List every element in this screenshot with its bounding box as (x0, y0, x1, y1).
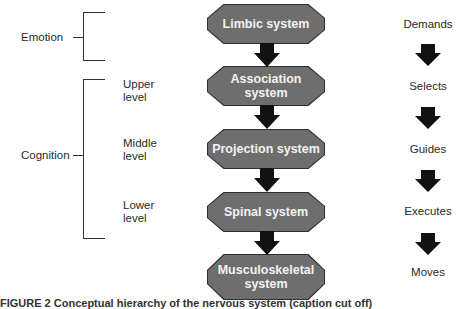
emotion-bracket-top (83, 12, 105, 13)
spinal-system-label: Spinal system (224, 205, 308, 219)
down-arrow-icon (254, 43, 280, 67)
cognition-bracket-tick (73, 155, 83, 156)
down-arrow-icon (254, 168, 280, 192)
emotion-bracket-tick (73, 37, 83, 38)
level-middle: Middle level (123, 137, 157, 163)
action-moves: Moves (388, 266, 457, 278)
musculoskeletal-line1: Musculoskeletal (218, 263, 315, 277)
down-arrow-icon (415, 170, 441, 192)
musculoskeletal-line2: system (244, 277, 287, 291)
action-selects: Selects (388, 80, 457, 92)
emotion-bracket-bottom (83, 60, 105, 61)
down-arrow-icon (254, 231, 280, 255)
level-middle-line1: Middle (123, 137, 157, 150)
association-system-label: Association system (208, 72, 324, 100)
down-arrow-icon (415, 107, 441, 129)
level-lower-line1: Lower (123, 199, 154, 212)
down-arrow-icon (415, 233, 441, 255)
level-middle-line2: level (123, 150, 157, 163)
musculoskeletal-system-box: Musculoskeletal system (208, 255, 324, 299)
action-executes: Executes (388, 205, 457, 217)
level-lower-line2: level (123, 212, 154, 225)
down-arrow-icon (254, 105, 280, 129)
down-arrow-icon (415, 44, 441, 66)
emotion-label: Emotion (21, 31, 63, 44)
limbic-system-label: Limbic system (223, 17, 310, 31)
cognition-bracket-top (83, 79, 105, 80)
limbic-system-box: Limbic system (208, 5, 324, 43)
projection-system-label: Projection system (212, 142, 320, 156)
spinal-system-box: Spinal system (208, 193, 324, 231)
level-upper: Upper level (123, 78, 154, 104)
cognition-bracket-bottom (83, 238, 105, 239)
figure-caption: FIGURE 2 Conceptual hierarchy of the ner… (0, 297, 372, 309)
association-system-box: Association system (208, 67, 324, 105)
level-lower: Lower level (123, 199, 154, 225)
action-demands: Demands (388, 18, 457, 30)
action-guides: Guides (388, 143, 457, 155)
emotion-bracket-vertical (83, 12, 84, 60)
cognition-bracket-vertical (83, 79, 84, 238)
cognition-label: Cognition (21, 149, 70, 162)
projection-system-box: Projection system (208, 130, 324, 168)
level-upper-line2: level (123, 91, 154, 104)
level-upper-line1: Upper (123, 78, 154, 91)
